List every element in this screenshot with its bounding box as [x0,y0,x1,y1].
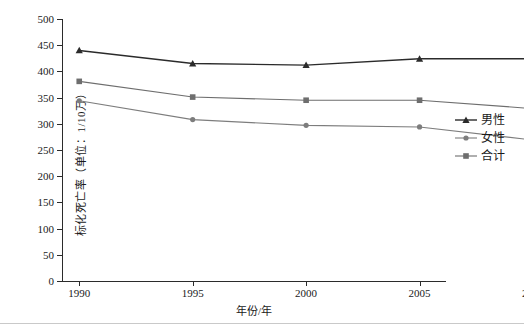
legend-item-女性[interactable]: 女性 [455,130,505,145]
y-axis-tick [57,45,62,46]
x-axis-tick-label: 2000 [295,288,317,299]
line-chart: 标化死亡率（单位：1/10万） 050100150200250300350400… [0,0,524,324]
x-axis-line [62,281,446,282]
y-axis-tick [57,176,62,177]
series-line [79,50,524,90]
legend-item-男性[interactable]: 男性 [455,112,505,127]
y-axis-tick-label: 200 [38,171,55,182]
data-point-marker [417,97,423,103]
x-axis-tick [306,281,307,286]
legend-label: 女性 [481,132,505,144]
triangle-marker-icon [455,114,477,126]
y-axis-tick [57,98,62,99]
y-axis-tick [57,19,62,20]
x-axis-tick [79,281,80,286]
y-axis-tick [57,229,62,230]
y-axis-tick-label: 100 [38,223,55,234]
circle-marker-icon [455,132,477,144]
chart-legend: 男性女性合计 [455,112,505,163]
y-axis-tick [57,124,62,125]
y-axis-tick-label: 500 [38,14,55,25]
data-point-marker [76,79,82,85]
y-axis-tick-label: 300 [38,118,55,129]
x-axis-tick-label: 2005 [409,288,431,299]
series-layer [62,19,445,281]
x-axis-tick [420,281,421,286]
x-axis-title: 年份/年 [62,302,446,318]
y-axis-tick-label: 150 [38,197,55,208]
legend-label: 男性 [481,114,505,126]
y-axis-tick [57,150,62,151]
y-axis-tick [57,281,62,282]
x-axis-tick [193,281,194,286]
plot-area: 0501001502002503003504004505001990199520… [62,19,445,281]
y-axis-tick [57,255,62,256]
data-point-marker [77,98,82,103]
series-男性 [76,47,524,94]
data-point-marker [303,97,309,103]
y-axis-tick-label: 450 [38,40,55,51]
x-axis-tick-label: 1990 [68,288,90,299]
y-axis-tick-label: 400 [38,66,55,77]
y-axis-tick-label: 250 [38,145,55,156]
data-point-marker [190,94,196,100]
square-marker-icon [455,150,477,162]
y-axis-tick-label: 50 [43,249,54,260]
data-point-marker [304,123,309,128]
y-axis-tick-label: 0 [49,276,55,287]
y-axis-tick-label: 350 [38,92,55,103]
x-axis-tick-label: 1995 [182,288,204,299]
legend-label: 合计 [481,150,505,162]
y-axis-tick [57,71,62,72]
data-point-marker [190,117,195,122]
data-point-marker [417,124,422,129]
legend-item-合计[interactable]: 合计 [455,148,505,163]
y-axis-tick [57,202,62,203]
